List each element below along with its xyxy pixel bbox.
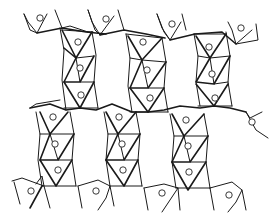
atom-circle: [185, 143, 191, 149]
atom-circle: [55, 167, 61, 173]
atom-circle: [183, 117, 189, 123]
atom-circle: [140, 39, 146, 45]
atom-circle: [144, 67, 150, 73]
atom-circle: [147, 95, 153, 101]
bottom-tetrahedra-chain: [12, 176, 246, 212]
octahedra-column-lower-3: [170, 114, 210, 190]
atom-circle: [212, 95, 218, 101]
crystal-structure-diagram: [0, 0, 274, 219]
atom-circle: [28, 188, 34, 194]
atom-circle: [37, 15, 43, 21]
atom-circle: [206, 44, 212, 50]
octahedra-column-lower-2: [104, 112, 142, 186]
atom-circle: [186, 169, 192, 175]
atom-circle: [159, 190, 165, 196]
atom-circle: [119, 141, 125, 147]
atom-circle: [93, 188, 99, 194]
atom-circle: [209, 71, 215, 77]
atom-circle: [52, 141, 58, 147]
atom-circle: [226, 192, 232, 198]
atom-circle: [116, 114, 122, 120]
octahedra-column-lower-1: [36, 112, 76, 186]
atom-circle: [249, 119, 255, 125]
atom-circle: [77, 65, 83, 71]
atom-circle: [169, 21, 175, 27]
atom-circle: [120, 167, 126, 173]
atom-circle: [238, 25, 244, 31]
atom-circle: [75, 39, 81, 45]
atom-circle: [78, 92, 84, 98]
structure-drawing: [0, 0, 274, 219]
atom-circle: [50, 114, 56, 120]
atom-circle: [103, 16, 109, 22]
octahedra-column-upper-3: [194, 32, 232, 106]
